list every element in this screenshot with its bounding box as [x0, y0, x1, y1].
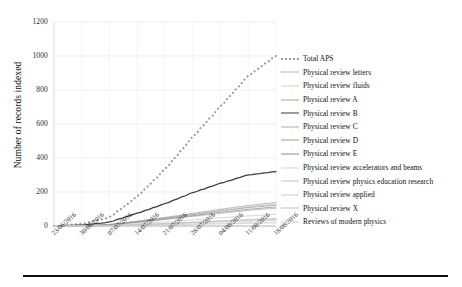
legend-item[interactable]: Reviews of modern physics — [281, 215, 462, 229]
legend-item[interactable]: Physical review accelerators and beams — [281, 161, 462, 175]
legend-item[interactable]: Physical review applied — [281, 188, 462, 202]
y-tick-label: 1000 — [14, 51, 48, 60]
y-tick-label: 400 — [14, 153, 48, 162]
legend-item[interactable]: Physical review X — [281, 202, 462, 216]
legend-item-label: Physical review physics education resear… — [303, 177, 433, 186]
legend-item-label: Physical review D — [303, 136, 358, 145]
legend-swatch-icon — [281, 176, 299, 186]
legend-swatch-icon — [281, 135, 299, 145]
legend-swatch-icon — [281, 54, 299, 64]
y-tick-label: 1200 — [14, 17, 48, 26]
legend-item[interactable]: Physical review B — [281, 106, 462, 120]
y-tick-label: 0 — [14, 221, 48, 230]
legend-swatch-icon — [281, 190, 299, 200]
legend-swatch-icon — [281, 95, 299, 105]
legend-item-label: Physical review fluids — [303, 81, 370, 90]
legend-item-label: Physical review A — [303, 95, 358, 104]
y-tick-label: 800 — [14, 85, 48, 94]
legend-item[interactable]: Physical review physics education resear… — [281, 174, 462, 188]
legend-item-label: Reviews of modern physics — [303, 217, 386, 226]
legend-item[interactable]: Physical review E — [281, 147, 462, 161]
legend-item[interactable]: Physical review letters — [281, 66, 462, 80]
legend-swatch-icon — [281, 149, 299, 159]
legend-item[interactable]: Physical review C — [281, 120, 462, 134]
legend-swatch-icon — [281, 108, 299, 118]
legend-swatch-icon — [281, 203, 299, 213]
gridlines — [54, 22, 276, 226]
legend-item-label: Physical review C — [303, 122, 358, 131]
y-tick-label: 600 — [14, 119, 48, 128]
legend-item-label: Total APS — [303, 54, 334, 63]
chart-legend: Total APSPhysical review lettersPhysical… — [281, 52, 462, 229]
legend-item[interactable]: Physical review fluids — [281, 79, 462, 93]
legend-item[interactable]: Physical review D — [281, 134, 462, 148]
legend-item-label: Physical review accelerators and beams — [303, 163, 422, 172]
bottom-rule — [23, 275, 448, 277]
legend-swatch-icon — [281, 67, 299, 77]
legend-item-label: Physical review letters — [303, 68, 371, 77]
chart-figure: Number of records indexed 02004006008001… — [0, 0, 462, 287]
y-tick-label: 200 — [14, 187, 48, 196]
legend-item-label: Physical review applied — [303, 190, 375, 199]
legend-item-label: Physical review E — [303, 149, 357, 158]
legend-item-label: Physical review X — [303, 204, 358, 213]
legend-item-label: Physical review B — [303, 109, 358, 118]
legend-item[interactable]: Physical review A — [281, 93, 462, 107]
legend-swatch-icon — [281, 217, 299, 227]
legend-swatch-icon — [281, 163, 299, 173]
legend-item[interactable]: Total APS — [281, 52, 462, 66]
legend-swatch-icon — [281, 81, 299, 91]
legend-swatch-icon — [281, 122, 299, 132]
